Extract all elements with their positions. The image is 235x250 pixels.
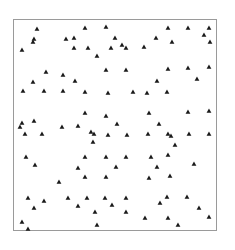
- triangle-marker-icon: [103, 195, 108, 199]
- triangle-marker-icon: [33, 162, 38, 166]
- triangle-marker-icon: [40, 131, 45, 135]
- triangle-marker-icon: [124, 209, 129, 213]
- triangle-marker-icon: [110, 202, 115, 206]
- triangle-marker-icon: [20, 47, 25, 51]
- triangle-marker-icon: [115, 121, 120, 125]
- triangle-marker-icon: [72, 35, 77, 39]
- triangle-marker-icon: [124, 45, 129, 49]
- triangle-marker-icon: [113, 35, 118, 39]
- triangle-marker-icon: [104, 154, 109, 158]
- triangle-marker-icon: [166, 131, 171, 135]
- triangle-marker-icon: [208, 39, 213, 43]
- triangle-marker-icon: [32, 205, 37, 209]
- triangle-marker-icon: [187, 131, 192, 135]
- triangle-marker-icon: [106, 132, 111, 136]
- triangle-marker-icon: [170, 39, 175, 43]
- triangle-marker-icon: [32, 36, 37, 40]
- triangle-marker-icon: [166, 66, 171, 70]
- triangle-marker-icon: [86, 45, 91, 49]
- triangle-marker-icon: [155, 164, 160, 168]
- triangle-marker-icon: [124, 154, 129, 158]
- triangle-marker-icon: [155, 78, 160, 82]
- triangle-marker-icon: [202, 32, 207, 36]
- triangle-marker-icon: [109, 45, 114, 49]
- triangle-marker-icon: [120, 42, 125, 46]
- triangle-marker-icon: [147, 110, 152, 114]
- triangle-marker-icon: [186, 109, 191, 113]
- triangle-marker-icon: [186, 65, 191, 69]
- triangle-marker-icon: [42, 198, 47, 202]
- triangle-marker-icon: [166, 152, 171, 156]
- triangle-marker-icon: [124, 67, 129, 71]
- triangle-marker-icon: [73, 78, 78, 82]
- triangle-marker-icon: [42, 88, 47, 92]
- triangle-marker-icon: [24, 154, 29, 158]
- triangle-marker-icon: [157, 121, 162, 125]
- triangle-marker-icon: [18, 124, 23, 128]
- triangle-marker-icon: [72, 45, 77, 49]
- triangle-marker-icon: [147, 175, 152, 179]
- triangle-marker-icon: [173, 142, 178, 146]
- triangle-marker-icon: [104, 174, 109, 178]
- triangle-marker-icon: [131, 89, 136, 93]
- triangle-marker-icon: [165, 194, 170, 198]
- triangle-marker-icon: [60, 124, 65, 128]
- triangle-marker-icon: [23, 131, 28, 135]
- triangle-marker-icon: [89, 129, 94, 133]
- triangle-marker-icon: [149, 154, 154, 158]
- triangle-marker-icon: [207, 108, 212, 112]
- triangle-marker-icon: [143, 215, 148, 219]
- triangle-marker-icon: [166, 25, 171, 29]
- triangle-marker-icon: [83, 110, 88, 114]
- triangle-marker-icon: [44, 69, 49, 73]
- triangle-marker-icon: [83, 154, 88, 158]
- triangle-marker-icon: [207, 25, 212, 29]
- triangle-marker-icon: [176, 222, 181, 226]
- triangle-marker-icon: [124, 195, 129, 199]
- triangle-marker-icon: [83, 174, 88, 178]
- triangle-marker-icon: [207, 131, 212, 135]
- triangle-marker-icon: [142, 44, 147, 48]
- triangle-marker-icon: [166, 215, 171, 219]
- triangle-marker-icon: [93, 209, 98, 213]
- triangle-marker-icon: [57, 179, 62, 183]
- triangle-marker-icon: [104, 113, 109, 117]
- triangle-marker-icon: [64, 36, 69, 40]
- triangle-marker-icon: [197, 205, 202, 209]
- triangle-marker-icon: [83, 89, 88, 93]
- triangle-marker-icon: [185, 194, 190, 198]
- triangle-marker-icon: [125, 132, 130, 136]
- triangle-marker-icon: [165, 89, 170, 93]
- triangle-marker-icon: [207, 64, 212, 68]
- triangle-marker-icon: [35, 26, 40, 30]
- triangle-marker-icon: [76, 203, 81, 207]
- triangle-marker-icon: [85, 195, 90, 199]
- triangle-marker-icon: [83, 25, 88, 29]
- triangle-marker-icon: [168, 173, 173, 177]
- triangle-marker-icon: [61, 88, 66, 92]
- triangle-marker-icon: [61, 72, 66, 76]
- triangle-marker-icon: [26, 195, 31, 199]
- triangle-marker-icon: [21, 88, 26, 92]
- triangle-marker-icon: [158, 200, 163, 204]
- triangle-marker-icon: [20, 120, 25, 124]
- triangle-marker-icon: [192, 161, 197, 165]
- triangle-marker-icon: [95, 222, 100, 226]
- triangle-marker-icon: [186, 25, 191, 29]
- triangle-marker-icon: [31, 79, 36, 83]
- triangle-marker-icon: [145, 90, 150, 94]
- triangle-marker-icon: [207, 214, 212, 218]
- triangle-marker-icon: [106, 90, 111, 94]
- scatter-plot: [0, 0, 235, 250]
- triangle-marker-icon: [76, 165, 81, 169]
- triangle-marker-icon: [20, 219, 25, 223]
- triangle-marker-icon: [76, 123, 81, 127]
- triangle-marker-icon: [195, 76, 200, 80]
- triangle-marker-icon: [154, 35, 159, 39]
- triangle-marker-icon: [91, 139, 96, 143]
- triangle-marker-icon: [104, 67, 109, 71]
- triangle-marker-icon: [104, 24, 109, 28]
- triangle-marker-icon: [32, 118, 37, 122]
- triangle-marker-icon: [66, 195, 71, 199]
- triangle-marker-icon: [114, 164, 119, 168]
